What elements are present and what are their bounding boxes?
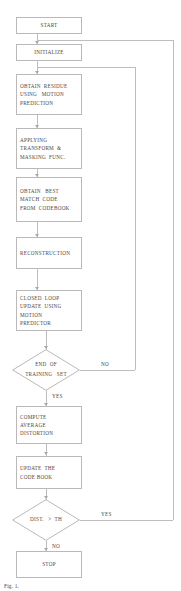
node-initialize-line-0: INITIALIZE xyxy=(34,48,64,56)
node-obtain-best-match-line-1: MATCH CODE xyxy=(20,195,58,203)
edge-end-training-no-horizontal xyxy=(80,370,135,371)
edge-dist-yes-vertical xyxy=(173,40,174,520)
edge-dist-yes-horizontal xyxy=(80,520,173,521)
node-compute-average-distortion-line-2: DISTORTION xyxy=(20,429,53,437)
decision-dist-gt-th[interactable]: DIST. > TH xyxy=(12,499,80,541)
node-initialize[interactable]: INITIALIZE xyxy=(16,44,82,61)
node-reconstruction-line-0: RECONSTRUCTION xyxy=(20,249,70,257)
node-applying-transform-line-1: TRANSFORM & xyxy=(20,144,61,152)
node-update-codebook-line-0: UPDATE THE xyxy=(20,464,55,472)
branch-label-dist-yes: YES xyxy=(101,511,112,517)
node-closed-loop-update-line-1: UPDATE USING xyxy=(20,302,62,310)
node-obtain-best-match-line-2: FROM CODEBOOK xyxy=(20,204,70,212)
node-closed-loop-update-line-0: CLOSED LOOP xyxy=(20,294,59,302)
branch-label-end-training-yes: YES xyxy=(52,393,63,399)
node-obtain-best-match-line-0: OBTAIN BEST xyxy=(20,187,59,195)
edge-end-training-no-return xyxy=(37,67,135,68)
node-obtain-residue-line-0: OBTAIN RESIDUE xyxy=(20,82,67,90)
node-obtain-best-match[interactable]: OBTAIN BEST MATCH CODE FROM CODEBOOK xyxy=(16,177,82,222)
node-stop[interactable]: STOP xyxy=(16,551,82,578)
diamond-shape-dist-gt-th xyxy=(12,499,80,541)
node-closed-loop-update-line-2: MOTION xyxy=(20,311,42,319)
node-compute-average-distortion[interactable]: COMPUTE AVERAGE DISTORTION xyxy=(16,406,82,444)
diamond-shape-end-of-training-set xyxy=(12,349,80,391)
node-obtain-residue-line-1: USING MOTION xyxy=(20,90,64,98)
node-start-line-0: START xyxy=(41,21,58,29)
node-update-codebook[interactable]: UPDATE THE CODE BOOK xyxy=(16,456,82,489)
node-applying-transform-line-2: MASKING FUNC. xyxy=(20,153,65,161)
branch-label-dist-no: NO xyxy=(52,543,60,549)
edge-end-training-no-vertical xyxy=(135,67,136,370)
node-applying-transform[interactable]: APPLYING TRANSFORM & MASKING FUNC. xyxy=(16,128,82,169)
node-reconstruction[interactable]: RECONSTRUCTION xyxy=(16,237,82,269)
node-closed-loop-update[interactable]: CLOSED LOOP UPDATE USING MOTION PREDICTO… xyxy=(16,290,82,331)
branch-label-end-training-no: NO xyxy=(101,361,109,367)
node-update-codebook-line-1: CODE BOOK xyxy=(20,473,52,481)
node-compute-average-distortion-line-1: AVERAGE xyxy=(20,421,46,429)
node-closed-loop-update-line-3: PREDICTOR xyxy=(20,319,51,327)
figure-caption: Fig. 1. xyxy=(4,583,178,591)
node-applying-transform-line-0: APPLYING xyxy=(20,136,47,144)
node-start[interactable]: START xyxy=(16,17,82,34)
node-obtain-residue-line-2: PREDICTION xyxy=(20,99,53,107)
node-compute-average-distortion-line-0: COMPUTE xyxy=(20,413,47,421)
arrowhead-update-codebook xyxy=(44,452,48,455)
node-stop-line-0: STOP xyxy=(42,560,56,568)
node-obtain-residue[interactable]: OBTAIN RESIDUE USING MOTION PREDICTION xyxy=(16,74,82,115)
decision-end-of-training-set[interactable]: END OF TRAINING SET xyxy=(12,349,80,391)
edge-dist-yes-return xyxy=(37,40,173,41)
